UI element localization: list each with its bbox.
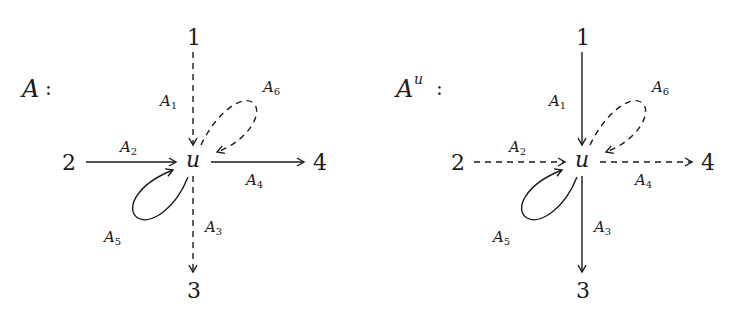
node-u: u (186, 147, 200, 172)
label-a5: A5 (491, 228, 510, 247)
node-4: 4 (701, 150, 715, 175)
label-a3: A3 (203, 218, 222, 237)
edge-a5-loop (133, 170, 188, 220)
node-2: 2 (451, 150, 465, 175)
label-a1: A1 (547, 92, 566, 111)
node-3: 3 (576, 278, 590, 303)
diagram-au: A u : 1 2 4 3 u A1 A2 A3 A4 A5 A6 (394, 25, 715, 303)
diagram-au-title: A (394, 75, 413, 103)
diagram-a-title: A (20, 75, 39, 103)
diagram-a-colon: : (45, 76, 52, 100)
node-2: 2 (62, 150, 76, 175)
node-3: 3 (187, 278, 201, 303)
label-a4: A4 (244, 171, 263, 190)
diagram-a: A : 1 2 4 3 u A1 A2 A3 A4 A5 A6 (20, 25, 327, 303)
label-a6: A6 (261, 78, 280, 97)
label-a1: A1 (158, 92, 177, 111)
diagram-au-superscript: u (414, 71, 423, 87)
edge-a5-loop (522, 170, 577, 220)
node-1: 1 (187, 25, 201, 50)
diagram-canvas: A : 1 2 4 3 u A1 A2 A3 A4 A5 A6 A u : 1 … (0, 0, 732, 314)
label-a2: A2 (118, 138, 137, 157)
edge-a6-loop (201, 101, 257, 152)
label-a2: A2 (507, 138, 526, 157)
node-1: 1 (576, 25, 590, 50)
edge-a6-loop (590, 101, 646, 152)
node-u: u (575, 147, 589, 172)
label-a6: A6 (650, 78, 669, 97)
label-a5: A5 (102, 228, 121, 247)
node-4: 4 (313, 150, 327, 175)
diagram-au-colon: : (436, 76, 443, 100)
label-a4: A4 (633, 171, 652, 190)
label-a3: A3 (592, 218, 611, 237)
